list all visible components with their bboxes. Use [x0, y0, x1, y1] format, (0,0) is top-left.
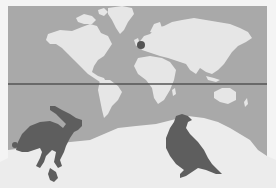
hare-tail: [12, 142, 18, 148]
map-illustration: [0, 0, 276, 188]
location-marker: [137, 41, 145, 49]
